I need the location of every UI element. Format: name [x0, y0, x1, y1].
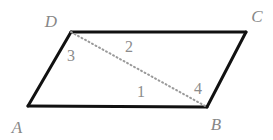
angle-label-4: 4: [194, 81, 202, 97]
edge-BC: [207, 32, 246, 107]
vertex-label-A: A: [12, 119, 22, 136]
vertex-label-D: D: [45, 13, 57, 30]
edge-AB: [28, 106, 207, 107]
edge-DA: [28, 32, 71, 106]
vertex-label-B: B: [211, 116, 221, 133]
parallelogram-svg: [0, 0, 273, 140]
geometry-figure: D C A B 3 2 1 4: [0, 0, 273, 140]
vertex-label-C: C: [251, 8, 262, 25]
angle-label-3: 3: [67, 48, 75, 64]
angle-label-1: 1: [137, 84, 145, 100]
angle-label-2: 2: [125, 39, 133, 55]
